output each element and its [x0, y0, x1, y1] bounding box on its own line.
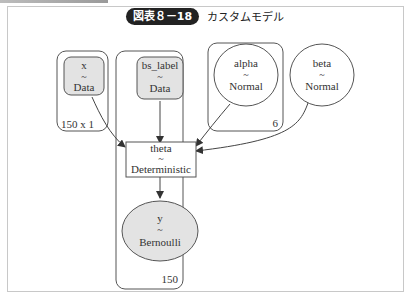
- plate-label: 150 x 1: [61, 118, 94, 130]
- svg-text:bs_label: bs_label: [142, 59, 179, 71]
- svg-text:alpha: alpha: [234, 57, 258, 69]
- svg-text:~: ~: [243, 69, 249, 80]
- svg-text:x: x: [81, 59, 87, 71]
- svg-text:Bernoulli: Bernoulli: [139, 236, 181, 248]
- svg-text:Normal: Normal: [305, 80, 339, 92]
- svg-text:Data: Data: [74, 81, 95, 93]
- svg-text:~: ~: [157, 71, 163, 82]
- svg-text:beta: beta: [313, 57, 331, 69]
- svg-text:Data: Data: [150, 82, 171, 94]
- plate-label: 150: [162, 273, 179, 285]
- edges: [92, 97, 308, 198]
- svg-text:~: ~: [157, 224, 163, 235]
- edge-alpha-theta: [196, 104, 230, 146]
- node-bs-label: bs_label ~ Data: [137, 57, 183, 99]
- svg-text:Deterministic: Deterministic: [131, 163, 191, 175]
- model-graph: 150 x 1 150 6 x ~ Data bs_label ~ Data a…: [0, 0, 410, 302]
- node-y: y ~ Bernoulli: [122, 201, 198, 261]
- svg-text:y: y: [157, 212, 163, 224]
- node-beta: beta ~ Normal: [290, 44, 354, 106]
- svg-text:~: ~: [319, 69, 325, 80]
- plate-label: 6: [273, 117, 279, 129]
- node-x: x ~ Data: [64, 57, 104, 95]
- svg-text:Normal: Normal: [229, 80, 263, 92]
- node-theta: theta ~ Deterministic: [126, 142, 196, 177]
- node-alpha: alpha ~ Normal: [214, 44, 278, 106]
- edge-beta-theta: [196, 103, 308, 151]
